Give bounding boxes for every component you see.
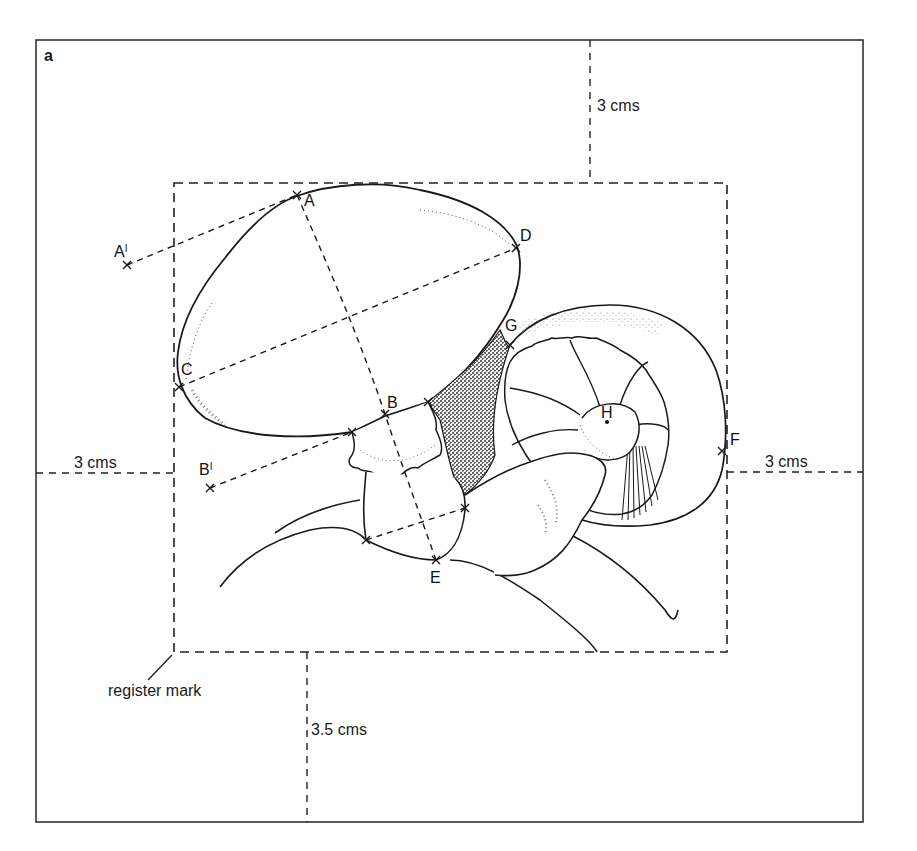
measurement-top: 3 cms [597, 98, 640, 114]
point-h-label: H [601, 405, 613, 421]
point-a-label: A [304, 193, 315, 209]
prime-mark: I [125, 243, 128, 254]
point-b-prime-label: BI [199, 462, 212, 478]
point-c-label: C [181, 362, 193, 378]
measurement-left: 3 cms [74, 455, 117, 471]
panel-label: a [44, 48, 53, 64]
diagram-canvas: a 3 cms 3 cms 3 cms 3.5 cms register mar… [0, 0, 917, 851]
point-e-label: E [430, 570, 441, 586]
point-f-label: F [730, 432, 740, 448]
point-a-prime-letter: A [114, 243, 125, 260]
measurement-bottom: 3.5 cms [311, 722, 367, 738]
point-a-prime-label: AI [114, 244, 127, 260]
register-mark-leader [148, 655, 172, 680]
stem-outline [364, 472, 465, 560]
point-d-label: D [520, 228, 532, 244]
register-mark-label: register mark [108, 683, 201, 699]
mushroom-measurement-drawing [0, 0, 917, 851]
point-g-label: G [505, 318, 517, 334]
measurement-right: 3 cms [765, 454, 808, 470]
prime-mark: I [210, 461, 213, 472]
point-b-prime-letter: B [199, 461, 210, 478]
point-b-label: B [387, 395, 398, 411]
